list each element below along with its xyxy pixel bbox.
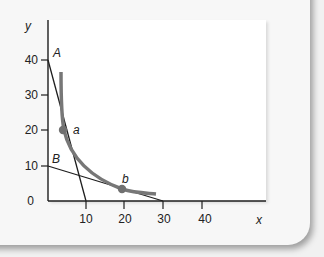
point-b-marker (118, 185, 126, 193)
point-b-label: b (122, 172, 129, 186)
y-axis-label: y (24, 19, 32, 33)
y-ticks (41, 60, 48, 166)
x-tick-label: 30 (157, 212, 171, 226)
x-axis-label: x (255, 213, 263, 227)
x-tick-labels: 10 20 30 40 (79, 212, 212, 226)
x-tick-label: 20 (118, 212, 132, 226)
point-a-marker (59, 126, 67, 134)
chart-svg: 40 30 20 10 0 10 20 30 40 y x A B a b (0, 0, 324, 257)
y-tick-labels: 40 30 20 10 0 (25, 53, 39, 208)
line-a-label: A (52, 46, 61, 60)
y-tick-label: 40 (25, 53, 39, 67)
y-tick-label: 30 (25, 88, 39, 102)
y-tick-label: 20 (25, 123, 39, 137)
line-b-label: B (52, 152, 60, 166)
x-ticks (86, 201, 202, 209)
point-a-label: a (73, 123, 80, 137)
x-tick-label: 10 (79, 212, 93, 226)
y-tick-label: 10 (25, 159, 39, 173)
y-tick-label: 0 (27, 194, 34, 208)
x-tick-label: 40 (198, 212, 212, 226)
